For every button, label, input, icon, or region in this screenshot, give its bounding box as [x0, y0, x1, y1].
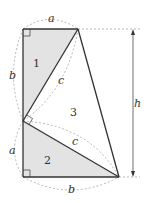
- region-3: 3: [70, 106, 77, 119]
- label-left-b: b: [9, 69, 16, 82]
- pythagorean-trapezoid-diagram: a b c a c b h 1 3 2: [0, 0, 146, 203]
- label-bottom-b: b: [68, 183, 75, 196]
- region-1: 1: [33, 57, 40, 70]
- label-c-upper: c: [58, 74, 64, 87]
- arrow-head-down-icon: [131, 171, 135, 177]
- label-height: h: [134, 97, 141, 110]
- region-2: 2: [44, 154, 51, 167]
- label-left-a: a: [9, 144, 16, 157]
- label-c-lower: c: [72, 135, 78, 148]
- arc-left-a: [15, 121, 24, 177]
- arrow-head-up-icon: [131, 29, 135, 35]
- label-top-a: a: [48, 12, 55, 25]
- slant-right: [78, 29, 119, 177]
